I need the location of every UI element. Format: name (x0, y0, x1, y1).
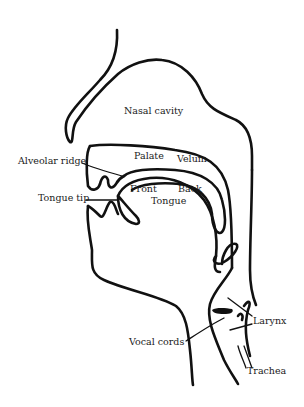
label-tongue: Tongue (151, 196, 186, 206)
label-vocal-cords: Vocal cords (129, 337, 184, 347)
label-front: Front (130, 184, 157, 194)
larynx-front (209, 268, 238, 384)
label-back: Back (178, 184, 202, 194)
vocal-cords-shape (212, 308, 233, 314)
label-trachea: Trachea (247, 366, 286, 376)
arytenoid (238, 314, 243, 320)
lower-teeth (88, 202, 118, 217)
upper-teeth (100, 176, 124, 187)
vocal-tract-diagram: Nasal cavity Alveolar ridge Palate Velum… (0, 0, 304, 407)
vocal-cords-leader (186, 318, 224, 341)
label-nasal-cavity: Nasal cavity (124, 106, 183, 116)
label-alveolar-ridge: Alveolar ridge (18, 156, 86, 166)
label-palate: Palate (134, 151, 164, 161)
larynx-leader-lower (230, 324, 252, 330)
label-tongue-tip: Tongue tip (38, 193, 89, 203)
label-larynx: Larynx (253, 316, 286, 326)
chin-neck (87, 206, 193, 385)
tongue-tip (118, 196, 139, 224)
label-velum: Velum (177, 154, 207, 164)
pharynx-back-wall (250, 170, 256, 305)
